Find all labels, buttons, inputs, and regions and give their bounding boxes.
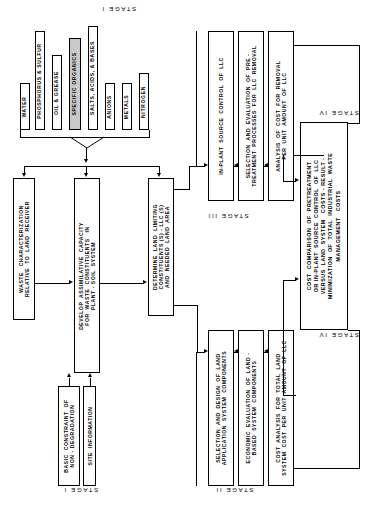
constituent-box-metals[interactable]: METALS bbox=[122, 83, 132, 130]
stage3-left-rail bbox=[196, 31, 197, 167]
stage3-to-stage4-top bbox=[294, 45, 360, 46]
llc-to-stage3-arrow bbox=[204, 163, 208, 167]
stage1-arrow-2 bbox=[84, 173, 88, 177]
llc-to-stage3-vertical bbox=[189, 166, 190, 190]
constituent-bus-left-tick bbox=[20, 130, 21, 138]
link-capacity-to-llc-arrow bbox=[143, 280, 147, 284]
process-box-cost-removal-analysis[interactable]: ANALYSIS OF COST FOR REMOVAL PER UNIT AM… bbox=[268, 31, 294, 201]
process-label-land-limiting-constituent: DETERMINE LAND LIMITING CONSTITUENTS (S)… bbox=[152, 204, 170, 290]
process-box-land-limiting-constituent[interactable]: DETERMINE LAND LIMITING CONSTITUENTS (S)… bbox=[148, 178, 174, 316]
input-arrow-site-information bbox=[88, 373, 92, 377]
constituent-label-water: WATER bbox=[22, 96, 28, 117]
constituent-label-phosphorus-sulfur: PHOSPHORUS & SULFUR bbox=[37, 43, 43, 119]
process-box-economic-evaluation[interactable]: ECONOMIC EVALUATION OF LAND - BASED SYST… bbox=[238, 330, 264, 486]
constituent-bus-right-tick bbox=[149, 130, 150, 138]
stage-label-stage3: STAGE III bbox=[207, 213, 249, 220]
stage2-cost-feed-line bbox=[283, 395, 296, 396]
llc-to-stage2-vertical bbox=[197, 305, 198, 352]
stage3-to-stage4-right bbox=[359, 45, 360, 124]
link-waste-to-capacity-arrow bbox=[69, 280, 73, 284]
process-box-assimilative-capacity[interactable]: DEVELOP ASSIMILATIVE CAPACITY FOR WASTE … bbox=[74, 178, 100, 373]
process-box-selection-design-land-application[interactable]: SELECTION AND DESIGN OF LAND APPLICATION… bbox=[208, 330, 234, 486]
process-box-cost-analysis-total-land[interactable]: COST ANALYSIS FOR TOTAL LAND SYSTEM COST… bbox=[268, 330, 294, 486]
process-box-waste-characterization[interactable]: WASTE CHARACTERIZATION RELATIVE TO LAND … bbox=[13, 178, 35, 320]
constituent-label-nitrogen: NITROGEN bbox=[141, 85, 147, 117]
constituent-label-specific-organics: SPECIFIC ORGANICS bbox=[72, 52, 78, 115]
stage3-cost-feed-line bbox=[294, 155, 324, 156]
input-riser-site-information bbox=[90, 378, 91, 386]
input-riser-non-degradation bbox=[69, 378, 70, 386]
constituent-label-salts-acids-bases: SALTS, ACIDS, & BASES bbox=[90, 41, 96, 115]
stage2-to-stage4-riser bbox=[283, 280, 284, 396]
stage3-to-stage4-arrow-stem bbox=[283, 181, 296, 182]
process-label-assimilative-capacity: DEVELOP ASSIMILATIVE CAPACITY FOR WASTE … bbox=[78, 222, 96, 330]
llc-to-stage2-horizontal bbox=[174, 305, 198, 306]
input-label-non-degradation-constraint: BASIC CONSTRAINT OF NON - DEGRADATION bbox=[63, 399, 75, 473]
input-label-site-information: SITE INFORMATION bbox=[87, 406, 93, 465]
process-box-cost-comparison[interactable]: COST COMPARISON OF PRETREATMENT OR IN-PL… bbox=[300, 122, 348, 330]
input-box-non-degradation-constraint[interactable]: BASIC CONSTRAINT OF NON - DEGRADATION bbox=[58, 386, 80, 486]
process-label-cost-comparison: COST COMPARISON OF PRETREATMENT OR IN-PL… bbox=[306, 153, 342, 300]
input-box-site-information[interactable]: SITE INFORMATION bbox=[83, 386, 96, 486]
stage1-arrow-1 bbox=[22, 173, 26, 177]
stage1-arrow-3 bbox=[157, 173, 161, 177]
link-waste-to-capacity bbox=[35, 283, 70, 284]
llc-to-stage3-horizontal bbox=[174, 189, 190, 190]
stage2-to-stage4-entry bbox=[348, 330, 360, 331]
stage1-distribution-bar bbox=[24, 166, 159, 167]
process-label-economic-evaluation: ECONOMIC EVALUATION OF LAND - BASED SYST… bbox=[245, 353, 257, 464]
constituent-label-metals: METALS bbox=[124, 94, 130, 118]
constituent-label-anions: ANIONS bbox=[107, 95, 113, 119]
stage-label-stage1-bottom: STAGE I bbox=[63, 487, 98, 494]
constituent-box-nitrogen[interactable]: NITROGEN bbox=[139, 73, 149, 130]
link-stage2-1-2-arrow bbox=[234, 349, 238, 353]
stage2-to-stage4-bottom bbox=[294, 468, 360, 469]
link-capacity-to-llc bbox=[100, 283, 144, 284]
stage2-to-stage4-right bbox=[359, 330, 360, 469]
process-label-cost-removal-analysis: ANALYSIS OF COST FOR REMOVAL PER UNIT AM… bbox=[275, 60, 287, 171]
process-label-selection-design-land-application: SELECTION AND DESIGN OF LAND APPLICATION… bbox=[215, 351, 227, 465]
process-label-cost-analysis-total-land: COST ANALYSIS FOR TOTAL LAND SYSTEM COST… bbox=[275, 340, 287, 476]
process-label-waste-characterization: WASTE CHARACTERIZATION RELATIVE TO LAND … bbox=[18, 201, 30, 297]
stage-label-stage4-bottom: STAGE IV bbox=[318, 332, 359, 339]
link-stage3-1-2-arrow bbox=[234, 163, 238, 167]
stage-label-stage4-top: STAGE IV bbox=[318, 110, 359, 117]
stage3-to-stage4-entry bbox=[348, 123, 360, 124]
constituent-box-oil-grease[interactable]: OIL & GREASE bbox=[52, 55, 62, 130]
process-box-pretreatment-selection[interactable]: SELECTION AND EVALUATION OF PRE - TREATM… bbox=[238, 31, 264, 201]
stage2-left-rail bbox=[196, 352, 197, 486]
process-label-in-plant-source-control: IN-PLANT SOURCE CONTROL OF LLC bbox=[218, 57, 224, 175]
llc-to-stage2-arrow bbox=[204, 349, 208, 353]
link-stage3-2-3-arrow bbox=[264, 163, 268, 167]
input-arrow-non-degradation bbox=[67, 373, 71, 377]
constituent-box-phosphorus-sulfur[interactable]: PHOSPHORUS & SULFUR bbox=[35, 31, 45, 130]
stage2-to-stage4-arrow-stem bbox=[283, 280, 296, 281]
stage-label-stage2-bottom: STAGE II bbox=[215, 487, 253, 494]
funnel-connector bbox=[70, 137, 104, 149]
funnel-stem-arrowhead bbox=[84, 159, 88, 163]
stage3-to-stage4-drop bbox=[283, 155, 284, 182]
constituent-label-oil-grease: OIL & GREASE bbox=[54, 70, 60, 114]
process-label-pretreatment-selection: SELECTION AND EVALUATION OF PRE - TREATM… bbox=[245, 45, 257, 186]
process-box-in-plant-source-control[interactable]: IN-PLANT SOURCE CONTROL OF LLC bbox=[208, 31, 234, 201]
constituent-box-water[interactable]: WATER bbox=[20, 83, 30, 130]
link-stage2-2-3-arrow bbox=[264, 349, 268, 353]
llc-to-stage3-entry bbox=[189, 166, 205, 167]
stage-label-stage1-top: STAGE I bbox=[101, 6, 136, 13]
constituent-box-anions[interactable]: ANIONS bbox=[105, 83, 115, 130]
flowchart-diagram: STAGE I STAGE I STAGE II STAGE III STAGE… bbox=[0, 0, 376, 514]
constituent-box-specific-organics[interactable]: SPECIFIC ORGANICS bbox=[69, 38, 81, 130]
constituent-box-salts-acids-bases[interactable]: SALTS, ACIDS, & BASES bbox=[88, 26, 98, 130]
